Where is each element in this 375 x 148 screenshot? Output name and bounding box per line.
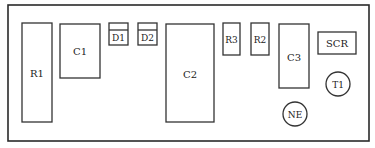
component-layout-diagram: R1 C1 D1 D2 C2 R3 R2 C3 SCR <box>0 0 375 148</box>
c2-label: C2 <box>183 69 197 80</box>
component-d1: D1 <box>109 23 128 45</box>
component-c1: C1 <box>60 24 100 78</box>
component-c2: C2 <box>166 24 214 122</box>
ne-label: NE <box>288 110 302 120</box>
d2-label: D2 <box>141 33 154 43</box>
c3-label: C3 <box>287 52 301 63</box>
component-r3: R3 <box>223 23 240 55</box>
r2-label: R2 <box>254 35 267 45</box>
component-r1: R1 <box>22 23 52 122</box>
component-t1: T1 <box>326 72 350 96</box>
component-d2: D2 <box>138 23 157 45</box>
component-c3: C3 <box>279 24 309 88</box>
r1-label: R1 <box>30 68 44 79</box>
component-r2: R2 <box>251 23 269 55</box>
d1-label: D1 <box>112 33 125 43</box>
component-scr: SCR <box>318 32 356 54</box>
t1-label: T1 <box>332 80 344 90</box>
c1-label: C1 <box>73 46 87 57</box>
scr-label: SCR <box>326 38 349 49</box>
component-ne: NE <box>283 102 307 126</box>
r3-label: R3 <box>225 35 238 45</box>
